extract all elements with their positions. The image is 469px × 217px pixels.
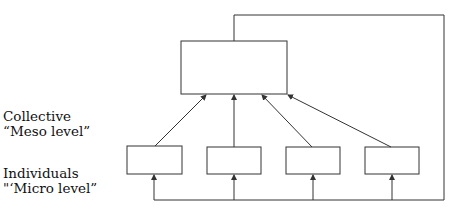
feedback-loop-line	[154, 15, 444, 200]
arrow-ind1-to-collective	[155, 95, 206, 146]
individual-box-4	[365, 147, 419, 174]
arrow-ind4-to-collective	[288, 95, 391, 147]
collective-box	[181, 41, 287, 94]
individual-box-1	[127, 146, 182, 174]
diagram-canvas	[0, 0, 469, 217]
individual-box-2	[207, 147, 261, 174]
individual-box-3	[286, 147, 340, 174]
